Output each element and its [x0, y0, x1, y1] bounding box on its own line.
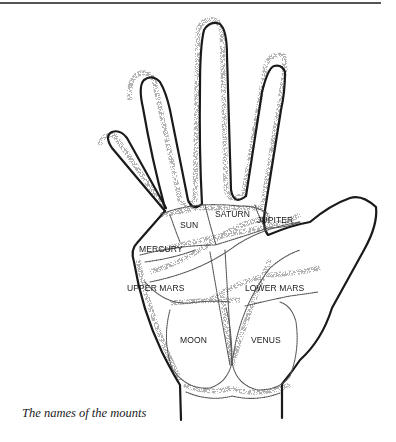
mount-label-mercury: MERCURY — [139, 243, 183, 254]
mount-label-upper-mars: UPPER MARS — [127, 282, 184, 293]
figure-caption: The names of the mounts — [22, 406, 146, 421]
stipple-shading — [100, 19, 320, 392]
mount-label-moon: MOON — [180, 334, 207, 345]
mount-label-sun: SUN — [180, 219, 198, 230]
mount-label-jupiter: JUPITER — [257, 214, 293, 225]
hand-outline — [108, 23, 376, 420]
mount-label-venus: VENUS — [251, 334, 281, 345]
mount-label-saturn: SATURN — [215, 208, 250, 219]
mount-label-lower-mars: LOWER MARS — [245, 282, 304, 293]
